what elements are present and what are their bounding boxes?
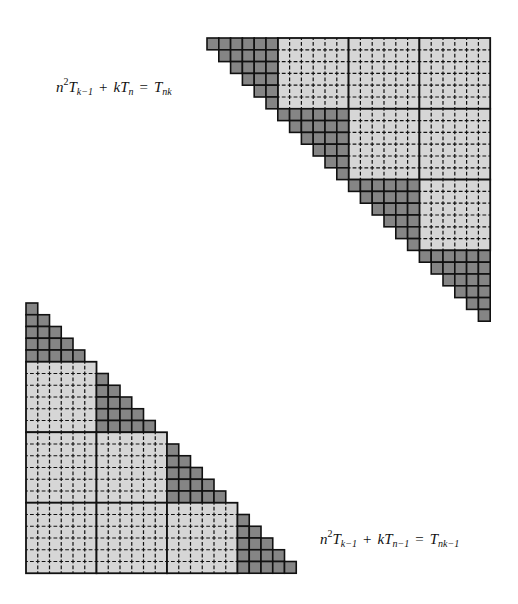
upper-triangular-grid-figure <box>207 38 490 321</box>
dark-cell <box>325 156 337 168</box>
dark-cell <box>325 109 337 121</box>
dark-cell <box>26 327 38 339</box>
formula-equals: = <box>415 531 423 547</box>
dark-cell <box>120 421 132 433</box>
dark-cell <box>313 144 325 156</box>
dark-cell <box>238 515 250 527</box>
dark-cell <box>254 73 266 85</box>
formula-var-t: T <box>333 531 341 547</box>
dark-cell <box>266 97 278 109</box>
dark-cell <box>238 550 250 562</box>
dark-cell <box>231 50 243 62</box>
dark-cell <box>108 397 120 409</box>
dark-cell <box>26 350 38 362</box>
dark-cell <box>325 121 337 133</box>
dark-cell <box>478 250 490 262</box>
dark-cell <box>191 479 203 491</box>
dark-cell <box>266 62 278 74</box>
dark-cell <box>120 397 132 409</box>
dark-cell <box>372 203 384 215</box>
formula-var-t: T <box>69 79 77 95</box>
dark-cell <box>238 562 250 574</box>
dark-cell <box>238 538 250 550</box>
dark-cell <box>301 109 313 121</box>
dark-cell <box>408 191 420 203</box>
dark-cell <box>337 168 349 180</box>
dark-cell <box>249 562 261 574</box>
dark-cell <box>97 409 109 421</box>
dark-cell <box>278 109 290 121</box>
dark-cell <box>478 309 490 321</box>
dark-cell <box>38 327 50 339</box>
dark-cell <box>179 479 191 491</box>
dark-cell <box>249 550 261 562</box>
dark-cell <box>61 338 73 350</box>
dark-cell <box>467 262 479 274</box>
formula-lower: n2Tk−1+kTn−1=Tnk−1 <box>320 528 459 549</box>
dark-cell <box>219 50 231 62</box>
formula-upper: n2Tk−1+kTn=Tnk <box>56 76 172 97</box>
dark-cell <box>38 338 50 350</box>
dark-cell <box>254 62 266 74</box>
dark-cell <box>396 180 408 192</box>
light-block <box>278 38 349 109</box>
light-block <box>97 432 168 503</box>
dark-cell <box>337 109 349 121</box>
dark-cell <box>325 144 337 156</box>
dark-cell <box>242 50 254 62</box>
dark-cell <box>214 491 226 503</box>
dark-cell <box>179 491 191 503</box>
dark-cell <box>337 156 349 168</box>
formula-var-t: T <box>384 531 392 547</box>
dark-cell <box>301 132 313 144</box>
formula-subscript: n <box>129 86 134 97</box>
dark-cell <box>266 50 278 62</box>
dark-cell <box>408 239 420 251</box>
dark-cell <box>455 250 467 262</box>
dark-cell <box>108 421 120 433</box>
light-block <box>349 109 420 180</box>
dark-cell <box>313 121 325 133</box>
dark-cell <box>273 562 285 574</box>
dark-cell <box>191 491 203 503</box>
formula-subscript: k−1 <box>341 538 357 549</box>
dark-cell <box>372 180 384 192</box>
dark-cell <box>301 121 313 133</box>
dark-cell <box>285 562 297 574</box>
dark-cell <box>478 262 490 274</box>
dark-cell <box>266 38 278 50</box>
dark-cell <box>467 274 479 286</box>
formula-subscript: nk−1 <box>438 538 459 549</box>
lower-triangular-grid-figure <box>26 303 296 573</box>
dark-cell <box>249 526 261 538</box>
dark-cell <box>242 38 254 50</box>
dark-cell <box>50 350 62 362</box>
dark-cell <box>455 286 467 298</box>
dark-cell <box>249 538 261 550</box>
dark-cell <box>38 350 50 362</box>
dark-cell <box>349 180 361 192</box>
dark-cell <box>97 385 109 397</box>
dark-cell <box>26 303 38 315</box>
dark-cell <box>167 456 179 468</box>
dark-cell <box>467 298 479 310</box>
dark-cell <box>219 38 231 50</box>
dark-cell <box>431 262 443 274</box>
dark-cell <box>337 121 349 133</box>
dark-cell <box>455 274 467 286</box>
dark-cell <box>108 409 120 421</box>
dark-cell <box>97 374 109 386</box>
light-block <box>419 180 490 251</box>
dark-cell <box>467 286 479 298</box>
dark-cell <box>273 550 285 562</box>
dark-cell <box>167 444 179 456</box>
dark-cell <box>337 144 349 156</box>
dark-cell <box>38 315 50 327</box>
dark-cell <box>254 50 266 62</box>
formula-equals: = <box>140 79 148 95</box>
dark-cell <box>431 250 443 262</box>
dark-cell <box>290 109 302 121</box>
light-block <box>349 38 420 109</box>
dark-cell <box>144 421 156 433</box>
dark-cell <box>132 409 144 421</box>
